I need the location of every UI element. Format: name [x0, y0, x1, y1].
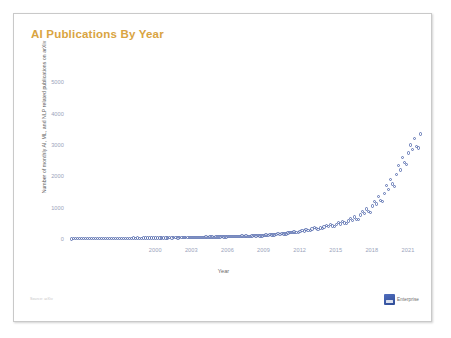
data-point: [359, 213, 362, 216]
x-tick-label: 2006: [207, 247, 247, 253]
data-point: [387, 188, 390, 191]
x-tick-label: 2015: [316, 247, 356, 253]
x-axis-title: Year: [14, 268, 433, 274]
data-point: [409, 143, 412, 146]
brand-logo: Enterprise: [384, 294, 419, 305]
data-point: [371, 204, 374, 207]
data-point: [375, 202, 378, 205]
data-point: [405, 163, 408, 166]
y-tick-label: 2000: [30, 173, 64, 179]
data-point: [399, 168, 402, 171]
x-tick-label: 2003: [171, 247, 211, 253]
data-point: [389, 178, 392, 181]
data-point: [363, 212, 366, 215]
data-point: [395, 173, 398, 176]
data-point: [383, 192, 386, 195]
x-tick-label: 2009: [244, 247, 284, 253]
data-point: [397, 164, 400, 167]
y-tick-label: 0: [30, 236, 64, 242]
x-tick-label: 2000: [135, 247, 175, 253]
x-tick-label: 2018: [352, 247, 392, 253]
data-point: [417, 146, 420, 149]
data-point: [413, 137, 416, 140]
data-point: [381, 200, 384, 203]
y-tick-label: 4000: [30, 111, 64, 117]
x-tick-label: 2021: [388, 247, 428, 253]
y-tick-label: 3000: [30, 142, 64, 148]
data-point: [393, 185, 396, 188]
data-point: [407, 151, 410, 154]
data-point: [385, 184, 388, 187]
data-point: [351, 219, 354, 222]
data-point: [357, 218, 360, 221]
data-point: [369, 211, 372, 214]
source-note: Source: arXiv: [30, 297, 53, 301]
data-point: [419, 132, 422, 135]
logo-text: Enterprise: [397, 297, 419, 302]
data-point: [411, 148, 414, 151]
y-axis-title: Number of monthly AI, ML, and NLP relate…: [41, 17, 47, 217]
slide-frame: AI Publications By Year Number of monthl…: [13, 13, 432, 322]
company-logo-mark-icon: [384, 294, 395, 305]
data-point: [401, 156, 404, 159]
y-tick-label: 1000: [30, 205, 64, 211]
x-tick-label: 2012: [280, 247, 320, 253]
scatter-plot: Number of monthly AI, ML, and NLP relate…: [14, 14, 433, 323]
y-tick-label: 5000: [30, 79, 64, 85]
data-point: [377, 195, 380, 198]
